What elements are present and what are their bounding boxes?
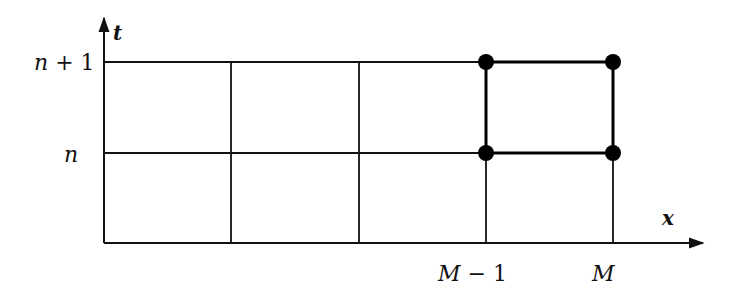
t-tick-n: n [64,142,78,167]
grid-diagram: t x n + 1 n M − 1 M [0,0,737,297]
t-axis-label: t [113,21,123,45]
stencil-cell [486,62,613,153]
stencil-point-m-minus-1-n-plus-1 [478,54,494,70]
x-axis-label: x [661,206,675,230]
stencil-point-m-minus-1-n [478,145,494,161]
x-tick-m-minus-1: M − 1 [437,261,507,286]
stencil-point-m-n [605,145,621,161]
stencil-point-m-n-plus-1 [605,54,621,70]
t-tick-n-plus-1: n + 1 [34,50,95,75]
x-tick-m: M [591,261,615,286]
